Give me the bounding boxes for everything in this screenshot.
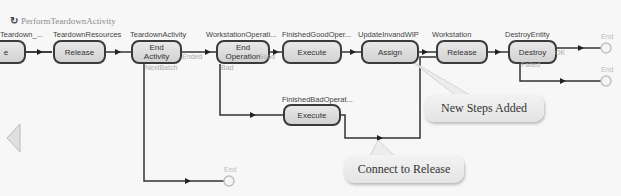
exit-label: OK	[555, 49, 565, 56]
exit-label: Ended	[182, 53, 202, 60]
end-node[interactable]	[601, 76, 611, 86]
step-label: FinishedGoodOper...	[282, 30, 351, 39]
step-finished-bad[interactable]: Execute	[283, 104, 341, 126]
exit-label: Good	[258, 53, 275, 60]
process-icon: ↻	[10, 15, 18, 26]
step-workstation-operation[interactable]: End Operation	[216, 40, 270, 64]
step-workstation-release[interactable]: Release	[436, 40, 488, 64]
exit-label: Failed	[521, 61, 540, 68]
step-label: Teardown_...	[0, 30, 43, 39]
step-label: TeardownResources	[53, 30, 121, 39]
step-teardown-resources[interactable]: Release	[53, 40, 106, 64]
exit-label: NextBatch	[145, 64, 177, 71]
step-label: FinishedBadOperat...	[282, 95, 353, 104]
callout-new-steps: New Steps Added	[424, 94, 544, 122]
step-teardown[interactable]: e	[0, 40, 26, 64]
step-label: DestroyEntity	[505, 30, 550, 39]
end-label: End	[601, 33, 613, 40]
end-label: End	[601, 66, 613, 73]
exit-label: Bad	[221, 64, 233, 71]
step-label: TeardownActivity	[130, 30, 186, 39]
step-update-inv-wip[interactable]: Assign	[361, 40, 419, 64]
end-node[interactable]	[601, 43, 611, 53]
step-label: WorkstationOperati...	[206, 30, 276, 39]
scroll-left-arrow-icon[interactable]	[7, 124, 20, 152]
end-node[interactable]	[224, 176, 234, 186]
step-teardown-activity[interactable]: End Activity	[131, 40, 182, 64]
step-label: Workstation	[432, 30, 471, 39]
end-label: End	[224, 166, 236, 173]
step-finished-good[interactable]: Execute	[282, 40, 342, 64]
process-title: ↻ PerformTeardownActivity	[10, 15, 116, 26]
callout-connect-release: Connect to Release	[344, 155, 464, 183]
step-label: UpdateInvandWIP	[358, 30, 419, 39]
